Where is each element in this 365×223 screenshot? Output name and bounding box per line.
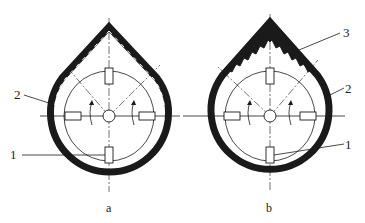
figure-b: 3 2 1 b: [183, 14, 352, 215]
rotation-arrow-left-a: [90, 102, 92, 125]
diag-line-right-b: [270, 60, 318, 116]
rotation-arrow-right-a: [132, 102, 134, 125]
casing-dashes-a: [55, 31, 165, 166]
callout-2-b: 2: [345, 81, 352, 96]
callout-1-a: 1: [10, 147, 17, 162]
callout-1-b: 1: [345, 137, 352, 152]
callout-3-b: 3: [343, 25, 350, 40]
blade-top-a: [105, 68, 113, 84]
diag-line-left-a: [66, 66, 109, 116]
arrowhead-left-a: [89, 100, 94, 105]
leader-2-a: [24, 95, 52, 104]
figure-a: 2 1 a: [10, 18, 180, 215]
blade-bottom-b: [266, 147, 274, 163]
blade-right-a: [139, 112, 155, 120]
caption-a: a: [106, 201, 112, 215]
arrowhead-left-b: [247, 100, 252, 105]
rotation-arrow-right-b: [289, 102, 291, 125]
arrowhead-right-b: [288, 100, 293, 105]
blade-right-b: [300, 112, 316, 120]
blade-left-a: [65, 112, 81, 120]
caption-b: b: [266, 201, 272, 215]
rotation-arrow-left-b: [248, 102, 250, 125]
blade-bottom-a: [105, 147, 113, 163]
blade-top-b: [266, 68, 274, 84]
blade-left-b: [224, 112, 240, 120]
arrowhead-right-a: [131, 100, 136, 105]
callout-2-a: 2: [14, 87, 21, 102]
hub-b: [264, 110, 276, 122]
leader-3-b: [299, 33, 340, 50]
diag-line-right-a: [109, 65, 160, 116]
diagram-canvas: 2 1 a 3 2 1 b: [0, 0, 365, 223]
hub-a: [103, 110, 115, 122]
